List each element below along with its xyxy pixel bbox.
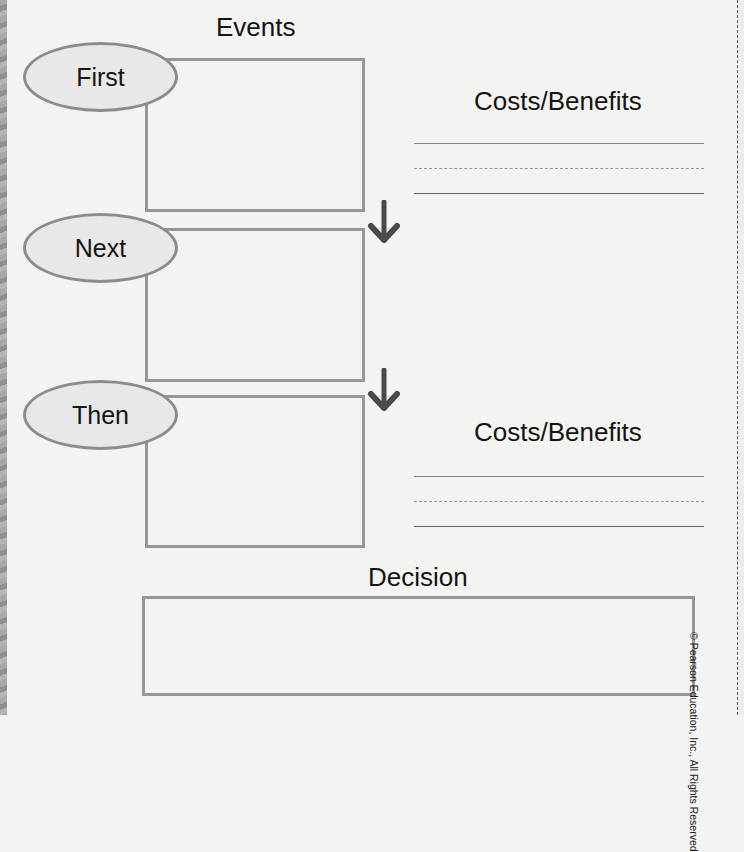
step-oval-next: Next xyxy=(23,213,178,283)
events-heading: Events xyxy=(216,12,296,43)
decorative-left-strip xyxy=(0,0,7,715)
writing-baseline[interactable] xyxy=(414,193,704,194)
copyright-notice: © Pearson Education, Inc., All Rights Re… xyxy=(688,632,700,852)
event-box-then[interactable] xyxy=(145,395,365,548)
decision-heading: Decision xyxy=(368,562,468,593)
writing-midline xyxy=(414,501,704,502)
writing-line[interactable] xyxy=(414,476,704,477)
costs-benefits-heading-2: Costs/Benefits xyxy=(474,417,642,448)
page-edge xyxy=(739,0,744,715)
event-box-next[interactable] xyxy=(145,228,365,382)
writing-midline xyxy=(414,168,704,169)
step-oval-then: Then xyxy=(23,380,178,450)
step-label: Then xyxy=(72,401,129,430)
perforation-cut-line xyxy=(737,0,738,715)
step-label: Next xyxy=(75,234,126,263)
down-arrow-icon xyxy=(367,368,401,412)
writing-baseline[interactable] xyxy=(414,526,704,527)
step-oval-first: First xyxy=(23,42,178,112)
writing-line[interactable] xyxy=(414,143,704,144)
costs-benefits-heading-1: Costs/Benefits xyxy=(474,86,642,117)
event-box-first[interactable] xyxy=(145,58,365,212)
decision-box[interactable] xyxy=(142,596,695,696)
step-label: First xyxy=(76,63,125,92)
down-arrow-icon xyxy=(367,200,401,244)
